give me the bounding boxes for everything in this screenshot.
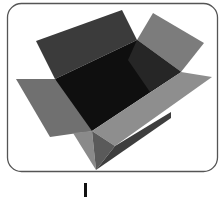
box-illustration: Grayscale illustration of an open empty … (0, 0, 220, 197)
caption-mark (84, 183, 87, 197)
